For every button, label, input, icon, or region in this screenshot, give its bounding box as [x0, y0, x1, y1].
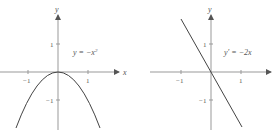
left-y-axis-label: y — [54, 5, 59, 14]
right-equation-label: y′ = −2x — [223, 48, 252, 57]
left-tick-label-x-pos1: 1 — [86, 77, 90, 85]
right-tick-label-x-pos1: 1 — [239, 77, 243, 85]
left-equation-label: y = −x2 — [72, 48, 98, 57]
right-plot: y −1 1 1 −1 y′ = −2x — [150, 5, 271, 130]
right-tick-label-x-neg1: −1 — [176, 77, 184, 85]
figure: x y −1 1 1 −1 y = −x2 y −1 1 1 −1 y′ = −… — [0, 0, 277, 139]
left-x-axis-label: x — [122, 68, 127, 77]
left-tick-label-x-neg1: −1 — [23, 77, 31, 85]
left-tick-label-y-pos1: 1 — [50, 41, 54, 49]
left-tick-label-y-neg1: −1 — [46, 97, 54, 105]
right-tick-label-y-pos1: 1 — [203, 41, 207, 49]
right-y-axis-label: y — [207, 5, 212, 14]
left-plot: x y −1 1 1 −1 y = −x2 — [0, 5, 127, 130]
right-tick-label-y-neg1: −1 — [199, 97, 207, 105]
